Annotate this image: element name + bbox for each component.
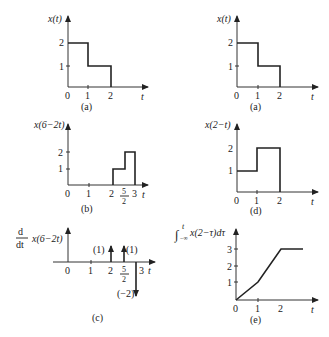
x-tick-2: 2 — [108, 265, 113, 276]
x-tick-1: 1 — [86, 188, 91, 199]
y-tick-2: 2 — [228, 37, 233, 48]
y-tick-2: 2 — [58, 147, 63, 158]
integral-upper: t — [182, 222, 185, 231]
impulse-label-3: (−2) — [117, 288, 134, 300]
y-tick-1: 1 — [228, 165, 233, 176]
y-tick-2: 2 — [59, 37, 64, 48]
plot-d: x(2−t) 2 1 0 1 2 t (d) — [204, 119, 318, 217]
x-tick-3: 3 — [132, 188, 137, 199]
signal-curve — [237, 43, 280, 87]
y-tick-1: 1 — [59, 61, 64, 72]
y-tick-2: 2 — [228, 143, 233, 154]
plot-b: x(6−2t) 2 1 0 1 2 5 2 3 t (b) — [33, 119, 148, 215]
x-tick-1: 1 — [255, 90, 260, 101]
y-axis-label: x(t) — [216, 13, 232, 25]
x-tick-5-num: 5 — [122, 265, 126, 274]
y-tick-1: 1 — [227, 277, 232, 288]
plot-a-left: x(t) 2 1 0 1 2 t (a) — [47, 13, 148, 113]
caption-e: (e) — [250, 314, 261, 326]
y-label-fn: x(2−τ)dτ — [189, 227, 225, 239]
x-axis-label: t — [142, 189, 145, 200]
x-tick-2: 2 — [108, 90, 113, 101]
caption-c: (c) — [92, 312, 103, 324]
x-tick-0: 0 — [65, 188, 70, 199]
x-tick-1: 1 — [88, 265, 93, 276]
x-tick-1: 1 — [255, 303, 260, 314]
signal-curve — [237, 148, 280, 192]
integral-lower: −∞ — [180, 235, 188, 241]
plot-c: d dt x(6−2t) (1) (1) (−2) 0 1 2 5 2 3 t … — [16, 226, 155, 324]
x-tick-5-num: 5 — [122, 187, 126, 196]
x-axis-label: t — [311, 304, 314, 315]
x-axis-label: t — [141, 91, 144, 102]
x-tick-0: 0 — [234, 195, 239, 206]
y-label-d: d — [18, 226, 23, 237]
signal-curve — [113, 152, 135, 185]
x-tick-3: 3 — [139, 265, 144, 276]
x-tick-2: 2 — [109, 188, 114, 199]
x-tick-2: 2 — [278, 303, 283, 314]
signal-curve — [236, 249, 303, 300]
signal-curve — [68, 43, 111, 87]
x-axis-label: t — [311, 196, 314, 207]
x-axis-label: t — [148, 265, 151, 276]
y-axis-label: x(6−2t) — [33, 119, 65, 131]
figure-canvas: x(t) 2 1 0 1 2 t (a) x(t) 2 1 0 1 2 t (a… — [0, 0, 329, 337]
y-label-dt: dt — [16, 239, 24, 250]
y-tick-3: 3 — [227, 244, 232, 255]
y-axis-label: x(2−t) — [204, 119, 231, 131]
y-tick-1: 1 — [228, 61, 233, 72]
impulse-label-2: (1) — [126, 244, 138, 256]
x-tick-5-den: 2 — [122, 275, 126, 284]
y-tick-2: 2 — [227, 261, 232, 272]
caption-a: (a) — [81, 101, 92, 113]
impulse-label-1: (1) — [93, 244, 105, 256]
plot-a-right: x(t) 2 1 0 1 2 t (a) — [216, 13, 318, 113]
x-tick-0: 0 — [234, 90, 239, 101]
x-tick-2: 2 — [277, 195, 282, 206]
plot-e: ∫ t −∞ x(2−τ)dτ 3 2 1 0 1 2 t (e) — [174, 222, 318, 326]
x-axis-label: t — [311, 91, 314, 102]
x-tick-0: 0 — [65, 265, 70, 276]
y-axis-label: x(t) — [47, 13, 63, 25]
y-label-fn: x(6−2t) — [31, 233, 63, 245]
caption-a: (a) — [250, 101, 261, 113]
x-tick-2: 2 — [277, 90, 282, 101]
x-tick-0: 0 — [65, 90, 70, 101]
x-tick-0: 0 — [233, 303, 238, 314]
x-tick-5-den: 2 — [122, 197, 126, 206]
y-tick-1: 1 — [58, 163, 63, 174]
x-tick-1: 1 — [85, 90, 90, 101]
caption-d: (d) — [250, 205, 262, 217]
caption-b: (b) — [81, 203, 93, 215]
